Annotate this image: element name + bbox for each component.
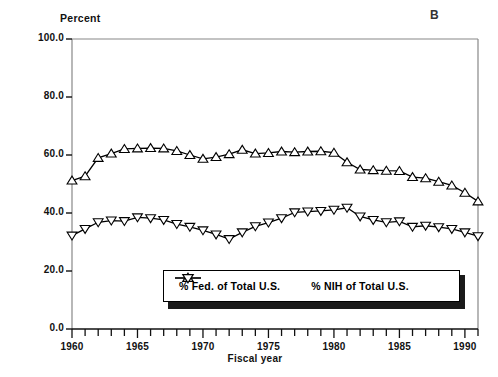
- data-point-marker: [80, 225, 90, 233]
- x-tick-label: 1975: [243, 341, 293, 352]
- plot-area: [0, 0, 498, 377]
- x-tick-label: 1960: [47, 341, 97, 352]
- data-point-marker: [408, 173, 418, 181]
- chart-figure: B Percent Fiscal year 100.080.060.040.02…: [0, 0, 498, 377]
- data-point-marker: [473, 233, 483, 241]
- data-point-marker: [106, 149, 116, 157]
- data-point-marker: [460, 188, 470, 196]
- data-point-marker: [408, 223, 418, 231]
- y-tick-label: 20.0: [14, 264, 64, 275]
- y-tick-label: 80.0: [14, 90, 64, 101]
- data-point-marker: [80, 172, 90, 180]
- data-point-marker: [67, 232, 77, 240]
- data-point-marker: [224, 150, 234, 158]
- series-layer: [67, 144, 483, 244]
- data-point-marker: [277, 215, 287, 223]
- data-point-marker: [67, 176, 77, 184]
- legend-item-nih[interactable]: % NIH of Total U.S.: [306, 280, 409, 292]
- legend-row: % Fed. of Total U.S. % NIH of Total U.S.: [174, 271, 435, 301]
- data-point-marker: [237, 145, 247, 153]
- y-tick-label: 0.0: [14, 322, 64, 333]
- x-tick-label: 1990: [440, 341, 490, 352]
- data-point-marker: [290, 209, 300, 217]
- data-point-marker: [473, 197, 483, 205]
- data-point-marker: [211, 231, 221, 239]
- x-tick-label: 1980: [309, 341, 359, 352]
- x-tick-label: 1970: [178, 341, 228, 352]
- series-fed: [67, 144, 483, 205]
- data-point-marker: [250, 223, 260, 231]
- legend-box: % Fed. of Total U.S. % NIH of Total U.S.: [163, 270, 460, 302]
- data-point-marker: [381, 219, 391, 227]
- x-tick-label: 1985: [374, 341, 424, 352]
- legend-label-nih: % NIH of Total U.S.: [311, 280, 409, 292]
- data-point-marker: [93, 154, 103, 162]
- y-tick-label: 60.0: [14, 148, 64, 159]
- y-tick-label: 40.0: [14, 206, 64, 217]
- data-point-marker: [237, 229, 247, 237]
- y-tick-label: 100.0: [14, 32, 64, 43]
- triangle-down-icon: [174, 271, 202, 285]
- data-point-marker: [224, 236, 234, 244]
- series-nih: [67, 204, 483, 243]
- x-tick-label: 1965: [112, 341, 162, 352]
- data-point-marker: [93, 219, 103, 227]
